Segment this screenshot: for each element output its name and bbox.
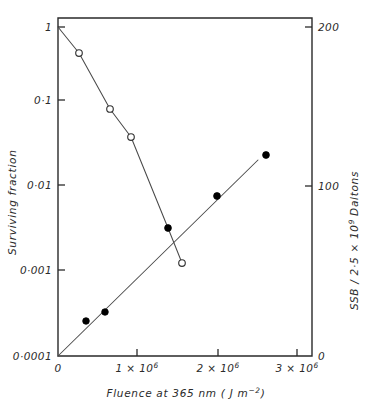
ytick-label-left-0p0001: 0·0001 — [13, 350, 52, 362]
chart-svg: 1 0·1 0·01 0·001 0·0001 200 100 0 0 1 × … — [0, 0, 368, 410]
ssb-fit-line — [58, 160, 258, 356]
right-axis-labels: 200 100 0 — [318, 21, 339, 362]
xtick-label-2e6: 2 × 106 — [196, 361, 239, 374]
data-point-open — [76, 50, 83, 57]
xtick-label-1e6: 1 × 106 — [115, 361, 158, 374]
y-axis-title-right-base: SSB / 2·5 × 10 — [348, 224, 360, 310]
survival-curve-line — [58, 27, 182, 263]
data-point-filled — [263, 152, 270, 159]
xtick-label-2e6-base: 2 × 10 — [196, 362, 234, 374]
y-axis-title-right: SSB / 2·5 × 109Daltons — [347, 171, 360, 310]
x-axis-title-base: Fluence at 365 nm ( J m — [106, 387, 248, 399]
xtick-label-3e6-exponent: 6 — [313, 361, 318, 370]
right-axis-ticks — [305, 27, 312, 186]
figure-container: 1 0·1 0·01 0·001 0·0001 200 100 0 0 1 × … — [0, 0, 368, 410]
x-axis-title-exponent: −2 — [248, 386, 260, 395]
xtick-label-3e6-base: 3 × 10 — [275, 362, 313, 374]
xtick-label-1e6-exponent: 6 — [153, 361, 158, 370]
left-axis-labels: 1 0·1 0·01 0·001 0·0001 — [13, 21, 52, 362]
ssb-data-points — [83, 152, 270, 325]
xtick-label-0: 0 — [54, 362, 61, 374]
xtick-label-2e6-exponent: 6 — [234, 361, 239, 370]
data-point-open — [179, 260, 186, 267]
ytick-label-right-200: 200 — [318, 21, 339, 33]
data-point-open — [107, 106, 114, 113]
data-point-filled — [83, 318, 90, 325]
data-point-filled — [214, 193, 221, 200]
x-axis-labels: 0 1 × 106 2 × 106 3 × 106 — [54, 361, 318, 374]
data-point-open — [128, 134, 135, 141]
xtick-label-3e6: 3 × 106 — [275, 361, 318, 374]
data-point-filled — [165, 225, 172, 232]
bottom-axis-ticks — [137, 349, 297, 356]
data-point-filled — [102, 309, 109, 316]
ytick-label-left-1: 1 — [45, 21, 52, 33]
plot-frame — [58, 18, 312, 356]
y-axis-title-right-tail: Daltons — [348, 171, 360, 216]
ytick-label-left-0p001: 0·001 — [20, 264, 52, 276]
ytick-label-left-0p01: 0·01 — [27, 179, 52, 191]
xtick-label-1e6-base: 1 × 10 — [115, 362, 153, 374]
y-axis-title-left: Surviving fraction — [6, 150, 18, 256]
ytick-label-right-100: 100 — [318, 180, 339, 192]
x-axis-title-tail: ) — [260, 387, 266, 399]
ytick-label-right-0: 0 — [318, 350, 325, 362]
ytick-label-left-0p1: 0·1 — [34, 94, 52, 106]
left-axis-ticks — [58, 27, 65, 270]
y-axis-title-right-exponent: 9 — [347, 219, 356, 224]
x-axis-title: Fluence at 365 nm ( J m−2) — [106, 386, 265, 399]
survival-data-points — [76, 50, 186, 267]
